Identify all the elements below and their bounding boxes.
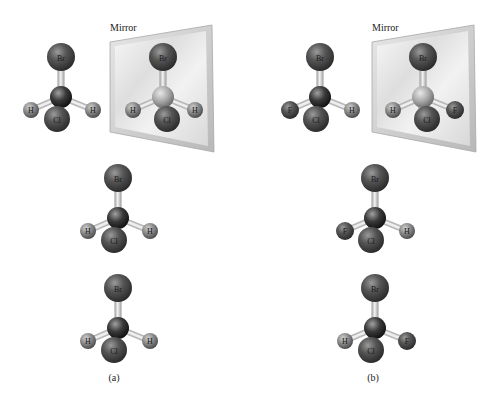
atom-carbon: [309, 86, 331, 108]
label-left: H: [85, 227, 91, 236]
atom-carbon: [364, 207, 386, 229]
label-right: H: [147, 337, 153, 346]
label-cl: Cl: [110, 347, 118, 356]
chirality-figure: Br H H Cl Mirror Br H H Cl: [0, 0, 483, 404]
atom-carbon: [107, 317, 129, 339]
atom-carbon: [107, 207, 129, 229]
atom-carbon: [364, 317, 386, 339]
label-cl: Cl: [423, 116, 431, 125]
atom-carbon: [412, 86, 434, 108]
label-right: H: [404, 227, 410, 236]
label-cl: Cl: [110, 237, 118, 246]
label-br: Br: [159, 54, 167, 63]
molecule-a-original: Br H H Cl: [23, 43, 101, 132]
label-cl: Cl: [163, 116, 171, 125]
mirror-label-b: Mirror: [372, 22, 399, 33]
label-right: F: [453, 106, 458, 115]
label-left: F: [288, 106, 293, 115]
label-br: Br: [114, 175, 122, 184]
caption-b: (b): [367, 372, 379, 384]
molecule-b-original: Br F H Cl: [281, 43, 360, 132]
panel-b: Br F H Cl Mirror Br H F Cl: [281, 22, 476, 384]
atom-carbon: [50, 86, 72, 108]
label-cl: Cl: [312, 116, 320, 125]
label-left: F: [343, 227, 348, 236]
label-right: H: [147, 227, 153, 236]
mirror-label-a: Mirror: [110, 22, 137, 33]
molecule-a-rotated-2: Br H H Cl: [80, 274, 158, 363]
label-right: H: [90, 106, 96, 115]
label-br: Br: [316, 54, 324, 63]
label-cl: Cl: [367, 237, 375, 246]
label-left: H: [28, 106, 34, 115]
label-br: Br: [371, 175, 379, 184]
label-right: H: [349, 106, 355, 115]
caption-a: (a): [108, 372, 119, 384]
label-left: H: [342, 337, 348, 346]
label-left: H: [390, 106, 396, 115]
label-br: Br: [57, 54, 65, 63]
label-right: H: [192, 106, 198, 115]
label-br: Br: [419, 54, 427, 63]
panel-a: Br H H Cl Mirror Br H H Cl: [23, 22, 214, 384]
label-left: H: [85, 337, 91, 346]
label-br: Br: [371, 285, 379, 294]
label-cl: Cl: [53, 116, 61, 125]
label-br: Br: [114, 285, 122, 294]
atom-carbon: [152, 86, 174, 108]
label-right: F: [405, 337, 410, 346]
molecule-b-rotated-1: Br F H Cl: [336, 164, 415, 253]
molecule-a-rotated-1: Br H H Cl: [80, 164, 158, 253]
label-left: H: [130, 106, 136, 115]
molecule-b-rotated-2: Br H F Cl: [337, 274, 416, 363]
label-cl: Cl: [367, 347, 375, 356]
